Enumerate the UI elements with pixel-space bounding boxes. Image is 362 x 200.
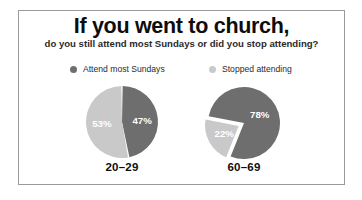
pie-caption-20-29: 20–29 <box>67 161 177 173</box>
pie-chart-20-29: 47%53% <box>67 83 177 161</box>
figure-frame: If you went to church, do you still atte… <box>18 10 345 185</box>
pie-slice-label: 53% <box>92 118 112 129</box>
legend-item-attend-most-sundays: Attend most Sundays <box>70 62 165 76</box>
pie-caption-60-69: 60–69 <box>189 161 299 173</box>
chart-subtitle: do you still attend most Sundays or did … <box>19 38 344 50</box>
pie-slice-label: 47% <box>132 115 152 126</box>
legend-swatch-attend-icon <box>70 66 77 73</box>
pie-slice-label: 22% <box>215 128 235 139</box>
chart-legend: Attend most Sundays Stopped attending <box>19 62 344 76</box>
legend-swatch-stopped-icon <box>209 66 216 73</box>
pie-chart-60-69: 78%22% <box>189 83 299 161</box>
pie-group-60-69: 78%22% 60–69 <box>189 83 299 178</box>
legend-label-stopped: Stopped attending <box>222 64 292 74</box>
legend-label-attend: Attend most Sundays <box>83 64 165 74</box>
chart-title: If you went to church, <box>19 14 344 38</box>
legend-item-stopped-attending: Stopped attending <box>209 62 292 76</box>
pie-group-20-29: 47%53% 20–29 <box>67 83 177 178</box>
pie-slice-label: 78% <box>250 109 270 120</box>
